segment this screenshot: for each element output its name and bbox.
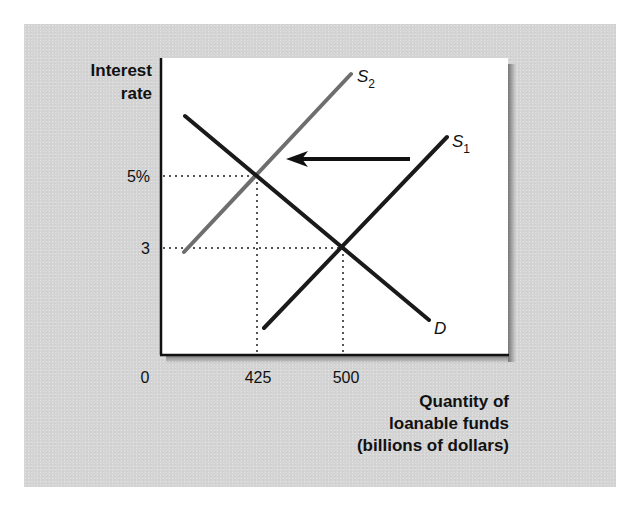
x-tick-425: 425: [245, 369, 272, 386]
x-axis-title-line3: (billions of dollars): [357, 436, 509, 455]
x-axis-title-line1: Quantity of: [419, 392, 509, 411]
y-tick-5pct: 5%: [127, 168, 150, 185]
plot-shadow-right: [508, 64, 516, 362]
x-axis-title-line2: loanable funds: [389, 414, 509, 433]
loanable-funds-chart: S2 S1 D Interest rate 5% 3 0 425 500 Qua…: [0, 0, 639, 508]
y-tick-3: 3: [141, 240, 150, 257]
d-label: D: [434, 319, 446, 338]
y-axis-title-line1: Interest: [91, 61, 153, 80]
x-tick-500: 500: [333, 369, 360, 386]
plot-area: [161, 58, 508, 355]
y-axis-title-line2: rate: [121, 84, 152, 103]
origin-label: 0: [141, 369, 150, 386]
